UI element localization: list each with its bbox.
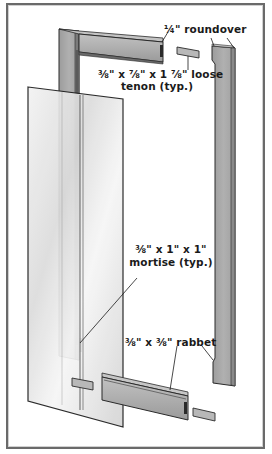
mortise-label-line2: mortise (typ.) [126,256,216,268]
loose-tenon-bottom-right [193,408,215,421]
mortise-slot-bottom [184,402,187,414]
right-stile [212,44,235,386]
tenon-label-line2: tenon (typ.) [98,80,216,92]
leader-rabbet-b [202,346,213,360]
mortise-slot-top [160,45,163,57]
tenon-label-line1: ⅜" x ⅞" x 1 ⅞" loose [98,68,216,80]
leader-rabbet-a [170,346,177,390]
rabbet-label: ⅜" x ⅜" rabbet [125,336,216,348]
mortise-label-line1: ⅜" x 1" x 1" [126,243,216,255]
roundover-label: ¼" roundover [164,23,246,35]
